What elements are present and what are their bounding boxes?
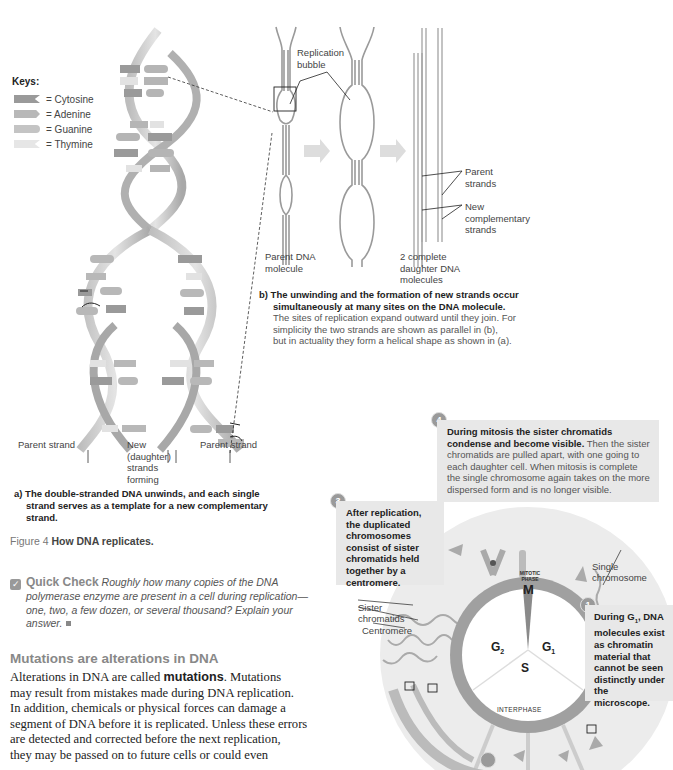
dna-helix-illustration — [40, 25, 300, 465]
figure-number: Figure 4 — [10, 535, 49, 547]
phase-s: S — [521, 661, 529, 675]
quick-check: ✓ Quick Check Roughly how many copies of… — [10, 576, 310, 631]
body-line: may result from mistakes made during DNA… — [10, 686, 322, 702]
term-mutations: mutations — [164, 670, 224, 684]
quick-check-text: answer. — [26, 617, 62, 629]
body-line: In addition, chemicals or physical force… — [10, 701, 322, 717]
body-line: they may be passed on to future cells or… — [10, 748, 322, 764]
step-3-bold: After replication, the duplicated chromo… — [346, 507, 422, 588]
label-centromere: Centromere — [362, 625, 412, 636]
body-text: . Mutations — [224, 670, 281, 684]
caption-b-line: The sites of replication expand outward … — [259, 312, 559, 324]
caption-b-bold-line: simultaneously at many sites on the DNA … — [259, 301, 559, 313]
label-parent-strand-right: Parent strand — [200, 439, 257, 451]
quick-check-text: one, two, a few dozen, or several thousa… — [10, 604, 310, 618]
caption-b-line: but in actuality they form a helical sha… — [259, 335, 559, 347]
phase-g1-sub: 1 — [551, 648, 555, 655]
label-new-daughter-strands: New (daughter) strands forming — [127, 439, 171, 485]
step-4-callout: During mitosis the sister chromatids con… — [437, 420, 659, 502]
keys-title: Keys: — [12, 76, 39, 87]
label-parent-dna-molecule: Parent DNA molecule — [265, 251, 316, 274]
phase-m: M — [523, 582, 534, 597]
label-single-chromosome: Single chromosome — [592, 561, 647, 583]
phase-g2: G2 — [491, 640, 504, 655]
replication-bubbles-illustration — [270, 25, 430, 275]
caption-a: a) The double-stranded DNA unwinds, and … — [14, 488, 284, 524]
check-box-icon: ✓ — [10, 579, 21, 590]
body-line: are detected and corrected before the ne… — [10, 732, 322, 748]
phase-g1-letter: G — [542, 640, 551, 654]
phase-g2-sub: 2 — [500, 648, 504, 655]
step-1-callout: During G1, DNA molecules exist as chroma… — [585, 605, 673, 701]
caption-a-line: strand. — [14, 512, 284, 524]
interphase-label: INTERPHASE — [497, 706, 542, 713]
caption-b-line: simplicity the two strands are shown as … — [259, 324, 559, 336]
step-1-bold-cont: , DNA molecules exist as chromatin mater… — [594, 611, 665, 708]
label-daughter-dna-molecules: 2 complete daughter DNA molecules — [400, 251, 460, 286]
caption-a-line: a) The double-stranded DNA unwinds, and … — [14, 488, 260, 499]
cytosine-swatch — [14, 95, 40, 103]
label-replication-bubble: Replication bubble — [297, 47, 344, 70]
caption-b: b) The unwinding and the formation of ne… — [259, 289, 559, 347]
figure-title-text: How DNA replicates. — [51, 535, 153, 547]
thymine-swatch — [14, 140, 40, 148]
caption-a-line: strand serves as a template for a new co… — [14, 500, 284, 512]
adenine-swatch — [14, 110, 40, 118]
caption-b-bold-line: b) The unwinding and the formation of ne… — [259, 289, 519, 300]
end-square-icon — [66, 621, 71, 626]
body-line: segment of DNA before it is replicated. … — [10, 717, 322, 733]
figure-title: Figure 4 How DNA replicates. — [10, 535, 154, 547]
step-1-bold: During G — [594, 611, 635, 622]
body-text: Alterations in DNA are called — [10, 670, 164, 684]
label-parent-strands: Parent strands — [465, 166, 496, 189]
section-heading: Mutations are alterations in DNA — [10, 651, 219, 666]
step-2-badge-partial — [480, 752, 496, 768]
section-body: Alterations in DNA are called mutations.… — [10, 670, 322, 764]
step-3-callout: After replication, the duplicated chromo… — [336, 501, 444, 585]
quick-check-text: polymerase enzyme are present in a cell … — [10, 590, 310, 604]
phase-g1: G1 — [542, 640, 555, 655]
quick-check-text: Roughly how many copies of the DNA — [102, 576, 279, 588]
quick-check-label: Quick Check — [26, 575, 99, 589]
daughter-strands-illustration — [408, 25, 468, 275]
phase-g2-letter: G — [491, 640, 500, 654]
label-sister-chromatids: Sister chromatids — [358, 602, 404, 624]
label-new-complementary-strands: New complementary strands — [465, 201, 530, 236]
guanine-swatch — [14, 125, 40, 133]
label-parent-strand-left: Parent strand — [18, 439, 75, 451]
mitotic-phase-label: MITOTIC PHASE — [519, 571, 541, 582]
